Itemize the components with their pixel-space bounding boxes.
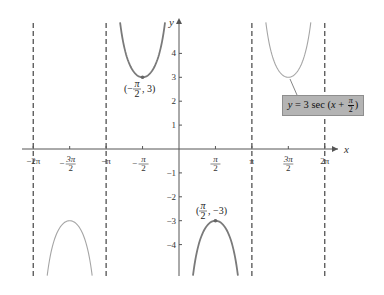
label-leader-line	[290, 79, 297, 95]
secant-branch	[47, 221, 92, 276]
point-label: (−π2, 3)	[124, 78, 155, 99]
equation-text: y = 3 sec (x + π2)	[288, 97, 359, 114]
secant-branch	[120, 22, 165, 77]
y-tick-label: −3	[166, 216, 176, 226]
x-axis-label: x	[343, 143, 349, 155]
secant-chart: xy −2π−3π2−π−π2π2π3π22π4321−1−2−3−4 (−π2…	[0, 0, 384, 295]
point-label: (π2, −3)	[196, 200, 227, 221]
x-tick-label: −π	[101, 156, 111, 166]
y-tick-label: −1	[166, 168, 176, 178]
y-axis-arrow-icon	[176, 18, 182, 24]
svg-text:2: 2	[286, 163, 291, 173]
min-point-marker	[214, 219, 218, 223]
svg-text:, 3): , 3)	[142, 83, 155, 95]
y-tick-label: −4	[166, 240, 176, 250]
svg-text:, −3): , −3)	[208, 205, 227, 217]
x-tick-label: π2	[210, 154, 220, 173]
x-axis-arrow-icon	[332, 146, 338, 152]
x-tick-label: −3π2	[59, 154, 76, 173]
svg-text:−: −	[132, 158, 137, 168]
y-axis-label: y	[168, 16, 174, 28]
x-tick-label: 2π	[320, 156, 330, 166]
svg-text:2: 2	[201, 210, 206, 221]
y-tick-label: 2	[172, 96, 177, 106]
svg-text:2: 2	[68, 163, 73, 173]
y-tick-label: 1	[172, 120, 177, 130]
x-tick-label: −2π	[26, 156, 41, 166]
svg-text:2: 2	[135, 88, 140, 99]
svg-text:−: −	[59, 158, 64, 168]
secant-branch	[193, 221, 238, 276]
x-tick-label: π	[250, 156, 255, 166]
y-tick-label: −2	[166, 192, 176, 202]
svg-text:2: 2	[141, 163, 146, 173]
equation-label-box: y = 3 sec (x + π2)	[282, 95, 364, 116]
x-tick-label: 3π2	[283, 154, 294, 173]
y-tick-label: 3	[172, 72, 177, 82]
svg-text:2: 2	[213, 163, 218, 173]
max-point-marker	[141, 76, 145, 80]
svg-text:(−: (−	[124, 83, 133, 95]
axes: xy	[22, 16, 349, 276]
y-tick-label: 4	[172, 48, 177, 58]
x-tick-label: −π2	[132, 154, 149, 173]
secant-branch	[266, 22, 311, 77]
